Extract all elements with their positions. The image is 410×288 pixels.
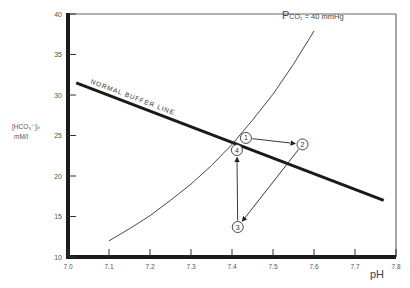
x-tick-label: 7.0 (63, 263, 72, 270)
state-point-3-label: 3 (236, 224, 240, 231)
x-tick-label: 7.3 (186, 263, 195, 270)
pco2-label-sub: CO₂ (289, 13, 302, 20)
x-tick-label: 7.4 (227, 263, 236, 270)
x-tick-label: 7.8 (391, 263, 400, 270)
state-point-2-label: 2 (301, 141, 305, 148)
y-tick-label: 35 (54, 51, 62, 58)
x-axis-label: pH (370, 268, 384, 280)
x-tick-label: 7.2 (145, 263, 154, 270)
y-axis-label: [HCO₃⁻]ₚ (12, 122, 40, 131)
normal-buffer-line (76, 83, 384, 201)
arrow-3-to-4 (237, 158, 238, 221)
acid-base-chart: 101520253035407.07.17.27.37.47.57.67.77.… (0, 0, 410, 288)
y-tick-label: 15 (54, 213, 62, 220)
x-tick-label: 7.6 (309, 263, 318, 270)
y-tick-label: 30 (54, 92, 62, 99)
y-tick-label: 20 (54, 173, 62, 180)
arrow-1-to-2 (252, 139, 295, 144)
normal-buffer-line-label: NORMAL BUFFER LINE (90, 78, 176, 117)
y-axis-unit-label: mM/l (14, 132, 28, 141)
y-tick-label: 25 (54, 132, 62, 139)
state-point-1-label: 1 (244, 134, 248, 141)
state-point-4-label: 4 (235, 147, 239, 154)
x-tick-label: 7.5 (268, 263, 277, 270)
y-tick-label: 10 (54, 254, 62, 261)
x-tick-label: 7.1 (104, 263, 113, 270)
x-tick-label: 7.7 (350, 263, 359, 270)
y-tick-label: 40 (54, 11, 62, 18)
arrow-2-to-3 (242, 150, 298, 222)
pco2-label-value: = 40 mmHg (303, 12, 344, 21)
pco2-isobar-label: PCO₂ = 40 mmHg (282, 9, 344, 21)
